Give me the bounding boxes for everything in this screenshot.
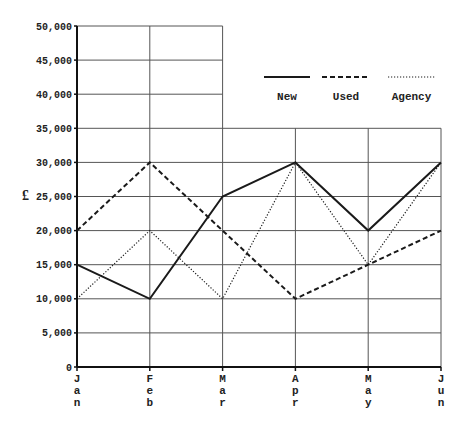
svg-text:a: a [365,385,372,397]
y-tick-label: 25,000 [36,192,72,203]
svg-text:u: u [438,385,445,397]
x-tick-label-may: May [365,373,372,409]
x-tick-label-feb: Feb [146,373,153,409]
svg-text:J: J [74,373,81,385]
y-tick-label: 40,000 [36,90,72,101]
svg-text:J: J [438,373,445,385]
svg-text:r: r [292,397,299,409]
y-tick-label: 50,000 [36,22,72,33]
x-tick-label-jun: Jun [438,373,445,409]
y-tick-label: 30,000 [36,158,72,169]
svg-text:F: F [146,373,153,385]
svg-text:a: a [74,385,81,397]
x-tick-label-mar: Mar [219,373,226,409]
y-tick-label: 10,000 [36,294,72,305]
svg-text:M: M [219,373,226,385]
legend: NewUsedAgency [264,77,435,103]
legend-label: New [277,91,297,103]
legend-item-used: Used [322,77,370,103]
svg-text:p: p [292,385,299,397]
svg-text:n: n [438,397,445,409]
svg-text:n: n [74,397,81,409]
y-axis-ticks: 05,00010,00015,00020,00025,00030,00035,0… [36,22,77,374]
svg-text:y: y [365,397,372,409]
y-tick-label: 35,000 [36,124,72,135]
line-chart: 05,00010,00015,00020,00025,00030,00035,0… [0,0,463,430]
x-axis-ticks: JanFebMarAprMayJun [74,367,445,409]
legend-label: Used [333,91,359,103]
svg-text:a: a [219,385,226,397]
legend-item-new: New [264,77,310,103]
y-tick-label: 0 [66,363,72,374]
y-tick-label: 5,000 [42,328,72,339]
y-axis-label: £ [22,188,29,203]
y-tick-label: 20,000 [36,226,72,237]
x-tick-label-jan: Jan [74,373,81,409]
svg-text:M: M [365,373,372,385]
y-tick-label: 15,000 [36,260,72,271]
svg-text:A: A [292,373,299,385]
grid-lines [77,26,441,367]
svg-text:b: b [146,397,153,409]
y-tick-label: 45,000 [36,56,72,67]
svg-text:r: r [219,397,226,409]
legend-label: Agency [392,91,432,103]
x-tick-label-apr: Apr [292,373,299,409]
svg-text:e: e [146,385,153,397]
legend-item-agency: Agency [388,77,435,103]
